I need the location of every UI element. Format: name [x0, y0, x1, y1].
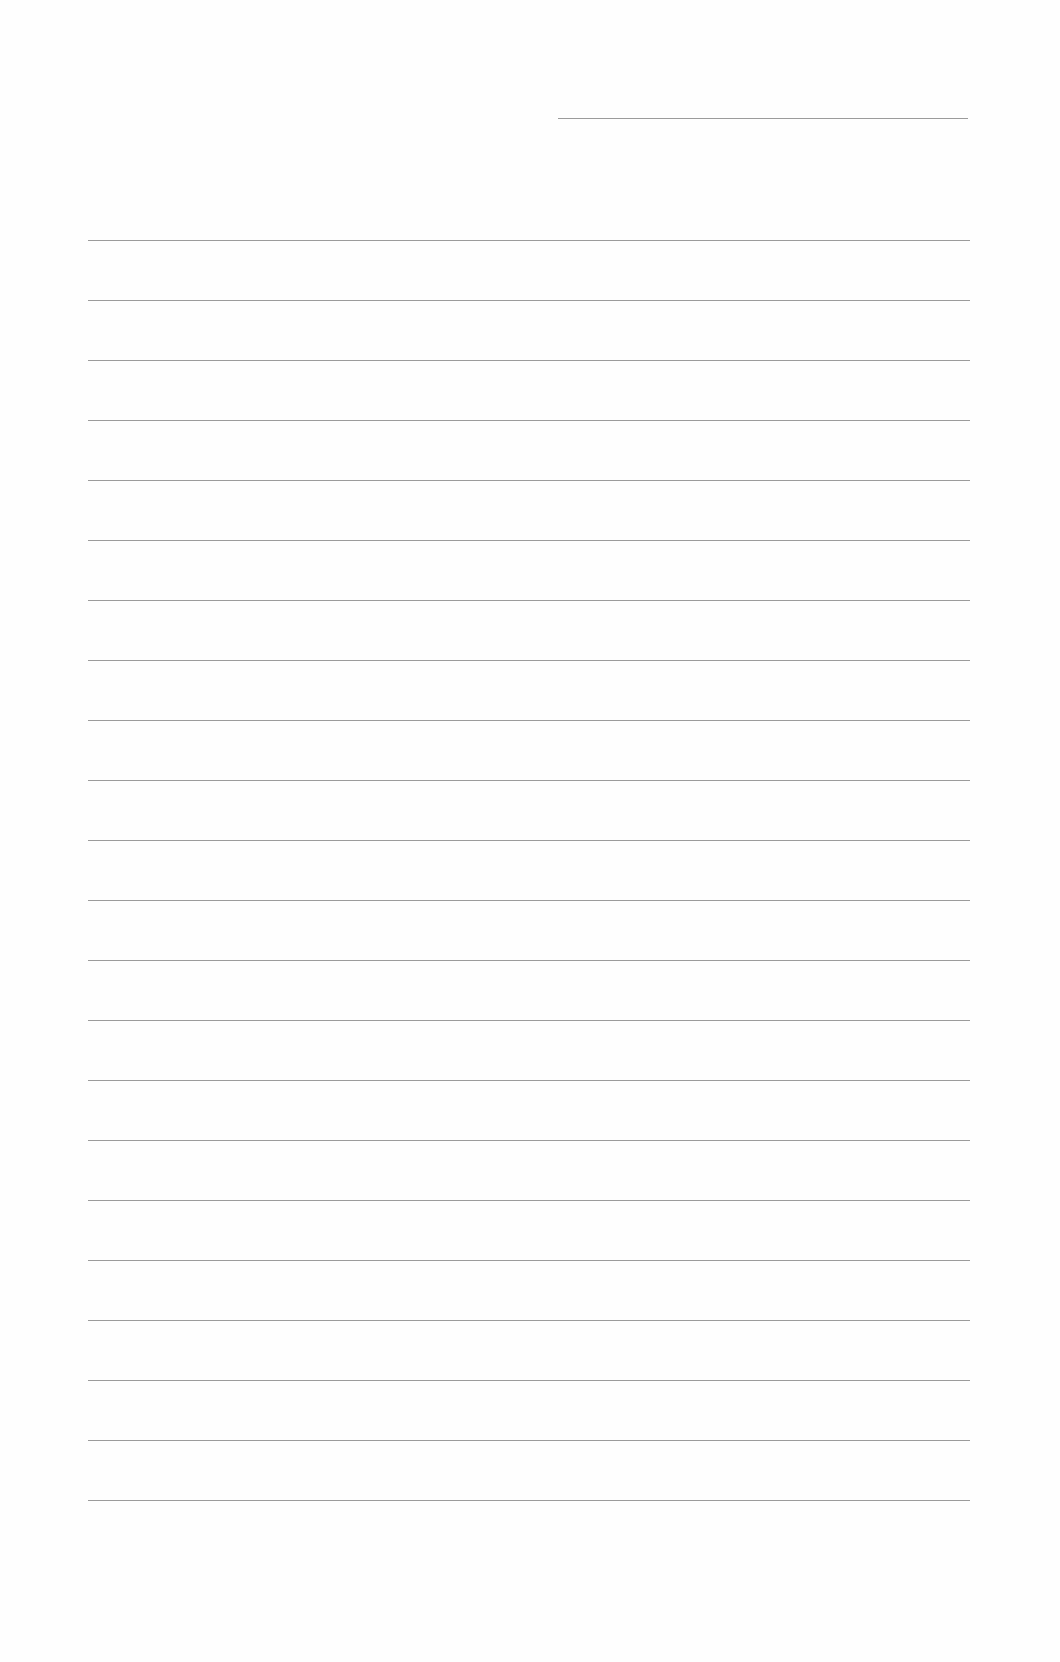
ruled-line [88, 360, 970, 361]
ruled-line [88, 1500, 970, 1501]
ruled-line [88, 1080, 970, 1081]
ruled-line [88, 420, 970, 421]
header-line [558, 118, 968, 119]
ruled-line [88, 600, 970, 601]
ruled-line [88, 1260, 970, 1261]
ruled-line [88, 1440, 970, 1441]
ruled-line [88, 720, 970, 721]
ruled-line [88, 300, 970, 301]
ruled-line [88, 540, 970, 541]
ruled-line [88, 660, 970, 661]
ruled-line [88, 1200, 970, 1201]
ruled-line [88, 960, 970, 961]
ruled-line [88, 1020, 970, 1021]
ruled-line [88, 1320, 970, 1321]
lined-page [0, 0, 1060, 1662]
ruled-line [88, 780, 970, 781]
ruled-line [88, 1140, 970, 1141]
ruled-line [88, 1380, 970, 1381]
ruled-line [88, 480, 970, 481]
ruled-line [88, 240, 970, 241]
ruled-line [88, 840, 970, 841]
ruled-line [88, 900, 970, 901]
